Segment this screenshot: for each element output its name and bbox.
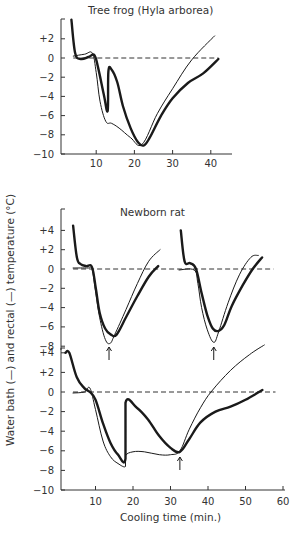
x-tick-label: 20 [128,158,141,169]
rectal-temperature-curve [181,230,262,331]
y-tick-label: +4 [39,347,54,358]
y-tick-label: 0 [48,53,54,64]
y-tick-label: −8 [39,465,54,476]
figure-canvas: +20−2−4−6−8−1010203040 +4+20−2−4−6−8 +4+… [0,0,300,533]
x-tick-label: 30 [164,496,177,507]
newborn-rat-title-text: Newborn rat [120,206,185,218]
x-tick-label: 60 [277,496,290,507]
y-tick-label: −2 [39,72,54,83]
newborn-rat-title: Newborn rat [120,206,185,218]
x-tick-label: 20 [127,496,140,507]
y-tick-label: −4 [39,91,54,102]
rectal-temperature-curve [71,20,218,146]
tree-frog-panel: +20−2−4−6−8−1010203040 [33,19,232,169]
y-tick-label: −2 [39,406,54,417]
y-tick-label: −10 [33,485,54,496]
y-tick-label: −2 [39,283,54,294]
y-tick-label: +2 [39,244,54,255]
y-tick-label: −8 [39,129,54,140]
y-tick-label: +2 [39,33,54,44]
water-bath-curve [179,255,258,342]
x-axis-label: Cooling time (min.) [120,511,221,523]
y-axis-label: Water bath (—) and rectal (—) temperatur… [4,190,20,450]
water-bath-curve [73,250,160,344]
tree-frog-title: Tree frog (Hyla arborea) [88,4,213,16]
y-tick-label: −4 [39,426,54,437]
y-tick-label: +4 [39,225,54,236]
y-tick-label: +2 [39,367,54,378]
x-tick-label: 10 [90,158,103,169]
x-tick-label: 30 [166,158,179,169]
y-tick-label: −10 [33,149,54,160]
x-tick-label: 40 [204,158,217,169]
x-tick-label: 50 [239,496,252,507]
y-tick-label: 0 [48,387,54,398]
newborn-rat-panel: +4+20−2−4−6−8 [39,209,273,360]
y-tick-label: 0 [48,264,54,275]
x-tick-label: 40 [202,496,215,507]
y-tick-label: −6 [39,445,54,456]
y-tick-label: −4 [39,302,54,313]
x-tick-label: 10 [89,496,102,507]
y-tick-label: −6 [39,321,54,332]
tree-frog-title-text: Tree frog (Hyla arborea) [88,4,213,16]
rectal-temperature-curve [73,226,158,337]
water-bath-curve [73,345,264,467]
y-tick-label: −6 [39,110,54,121]
rat-continuous-panel: +4+20−2−4−6−8−10102030405060 [33,345,289,507]
water-bath-curve [73,36,214,146]
